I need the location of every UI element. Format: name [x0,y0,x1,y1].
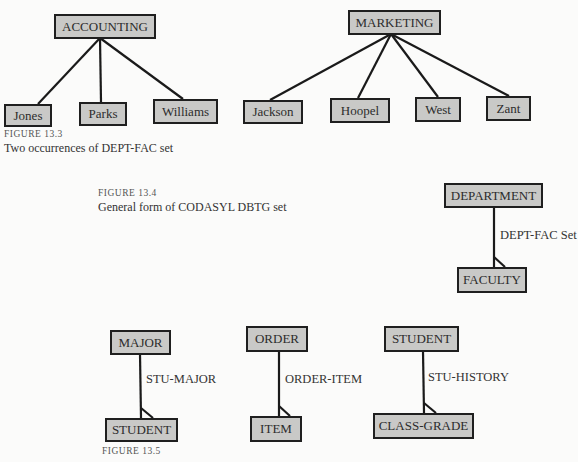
record-major: MAJOR [110,330,171,355]
record-parks: Parks [79,102,127,126]
link-accounting-williams [100,38,183,99]
record-student-member: STUDENT [105,418,178,442]
figure-13-5-number: FIGURE 13.5 [102,446,161,456]
record-hoopel: Hoopel [330,98,390,123]
connector-lines [0,0,578,462]
record-faculty: FACULTY [457,267,527,293]
record-department: DEPARTMENT [444,183,543,208]
figure-13-3-number: FIGURE 13.3 [4,129,63,139]
crowfoot-student [141,408,153,418]
crowfoot-item [279,406,290,416]
set-name-stu-major: STU-MAJOR [146,372,216,387]
figure-13-4-caption: General form of CODASYL DBTG set [98,200,287,215]
link-marketing-zant [391,34,509,96]
set-name-stu-history: STU-HISTORY [428,370,509,385]
set-name-dept-fac: DEPT-FAC Set [500,228,577,243]
link-marketing-west [391,34,438,97]
record-marketing: MARKETING [348,10,441,35]
crowfoot-faculty [494,257,505,267]
record-class-grade: CLASS-GRADE [373,413,474,439]
record-west: West [415,97,461,122]
record-jones: Jones [4,104,52,127]
record-item: ITEM [250,416,302,442]
figure-13-4-number: FIGURE 13.4 [98,188,157,198]
link-accounting-jones [38,38,100,104]
crowfoot-classgrade [424,403,436,413]
record-jackson: Jackson [243,100,303,124]
figure-13-3-caption: Two occurrences of DEPT-FAC set [4,141,173,156]
record-zant: Zant [486,96,531,121]
set-name-order-item: ORDER-ITEM [285,372,362,387]
record-accounting: ACCOUNTING [54,14,156,39]
record-williams: Williams [153,99,218,124]
record-order: ORDER [246,326,308,352]
link-accounting-parks [100,38,101,102]
record-student-owner: STUDENT [384,326,459,352]
